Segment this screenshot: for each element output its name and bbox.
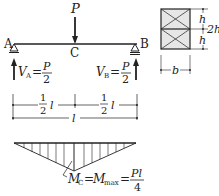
arrow-up-icon bbox=[11, 58, 17, 66]
svg-text:2: 2 bbox=[43, 73, 50, 86]
svg-text:2: 2 bbox=[122, 73, 129, 86]
lower-height-label: h bbox=[199, 34, 206, 47]
svg-text:4: 4 bbox=[134, 181, 141, 194]
beam-diagram: P A B C V A = P 2 V B = P 2 bbox=[0, 0, 219, 196]
svg-text:B: B bbox=[104, 72, 109, 80]
midpoint-label: C bbox=[70, 46, 79, 60]
cross-section: h h 2h b bbox=[160, 8, 219, 77]
moment-formula: M C = M max = Pl 4 bbox=[67, 167, 144, 194]
arrow-up-icon bbox=[133, 58, 139, 66]
svg-text:2: 2 bbox=[101, 105, 107, 116]
dim-half-left: 1 2 l bbox=[39, 92, 54, 116]
svg-text:l: l bbox=[50, 99, 54, 112]
load-label: P bbox=[70, 1, 80, 16]
support-b-label: B bbox=[140, 37, 149, 51]
total-height-label: 2h bbox=[206, 23, 219, 36]
svg-text:P: P bbox=[121, 60, 130, 73]
svg-text:A: A bbox=[25, 72, 32, 80]
svg-text:=: = bbox=[120, 172, 130, 186]
svg-text:1: 1 bbox=[101, 92, 107, 103]
svg-text:Pl: Pl bbox=[130, 167, 142, 180]
svg-text:C: C bbox=[78, 179, 83, 187]
svg-text:l: l bbox=[111, 99, 115, 112]
load-arrow: P bbox=[70, 1, 80, 44]
upper-height-label: h bbox=[199, 13, 206, 26]
dim-half-right: 1 2 l bbox=[100, 92, 115, 116]
svg-text:2: 2 bbox=[40, 105, 46, 116]
reaction-b: V B = P 2 bbox=[96, 58, 139, 86]
reaction-a: V A = P 2 bbox=[11, 58, 52, 86]
svg-text:1: 1 bbox=[40, 92, 46, 103]
arrow-down-icon bbox=[72, 36, 78, 44]
width-label: b bbox=[172, 64, 179, 77]
svg-text:P: P bbox=[42, 60, 51, 73]
svg-text:max: max bbox=[104, 179, 119, 187]
dim-total: l bbox=[72, 112, 76, 125]
roller-support-icon bbox=[131, 44, 139, 51]
svg-text:=: = bbox=[110, 65, 120, 79]
svg-text:=: = bbox=[32, 65, 42, 79]
